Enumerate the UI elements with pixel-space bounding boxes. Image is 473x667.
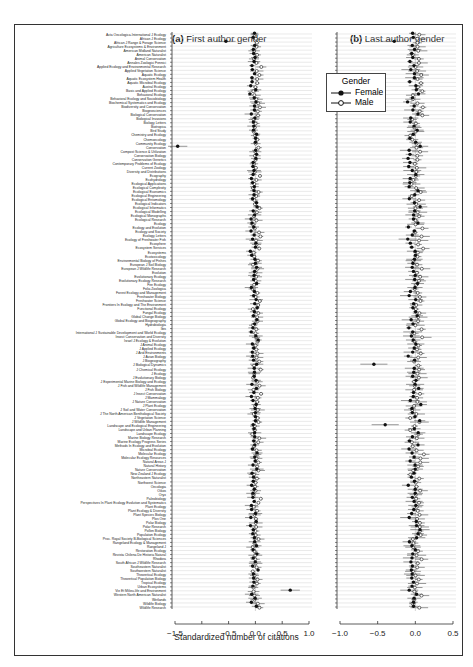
open-circle-icon [331,99,351,107]
legend: Gender Female Male [326,73,386,112]
legend-title: Gender [327,76,385,86]
filled-circle-icon [331,89,351,97]
x-axis-label: Standardized number of citations [0,632,473,642]
forest-plot: Acta Oecologica-International J EcologyA… [0,0,473,667]
journal-label: Wildlife Research [140,606,166,610]
